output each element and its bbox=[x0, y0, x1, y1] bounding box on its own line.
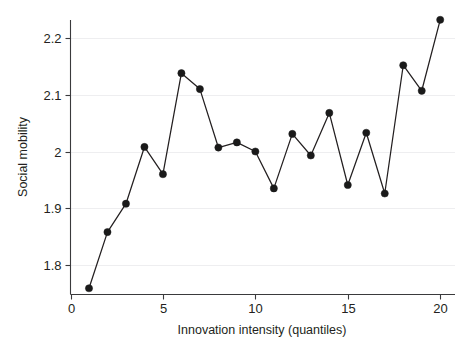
data-point bbox=[289, 130, 296, 137]
data-point bbox=[381, 190, 388, 197]
data-point bbox=[270, 185, 277, 192]
x-tick-marks bbox=[72, 295, 441, 300]
gridlines bbox=[71, 39, 456, 266]
x-tick-labels: 05101520 bbox=[68, 301, 448, 316]
data-point bbox=[418, 87, 425, 94]
y-tick-label-4: 2.2 bbox=[43, 31, 61, 46]
data-point bbox=[233, 139, 240, 146]
data-point bbox=[196, 85, 203, 92]
y-tick-label-1: 1.9 bbox=[43, 201, 61, 216]
data-point bbox=[252, 148, 259, 155]
series-polyline bbox=[89, 20, 440, 288]
x-tick-label-1: 5 bbox=[160, 301, 167, 316]
y-tick-label-3: 2.1 bbox=[43, 88, 61, 103]
data-point bbox=[344, 181, 351, 188]
data-point bbox=[307, 152, 314, 159]
x-tick-label-2: 10 bbox=[248, 301, 262, 316]
line-chart-canvas: 1.81.922.12.2 05101520 Innovation intens… bbox=[0, 0, 475, 349]
data-point bbox=[159, 171, 166, 178]
y-tick-labels: 1.81.922.12.2 bbox=[43, 31, 61, 273]
x-axis-title: Innovation intensity (quantiles) bbox=[178, 323, 347, 337]
data-point bbox=[437, 16, 444, 23]
y-tick-label-0: 1.8 bbox=[43, 258, 61, 273]
y-axis-title: Social mobility bbox=[16, 116, 30, 197]
data-point bbox=[141, 143, 148, 150]
x-tick-label-0: 0 bbox=[68, 301, 75, 316]
chart-figure: 1.81.922.12.2 05101520 Innovation intens… bbox=[0, 0, 475, 349]
x-tick-label-3: 15 bbox=[341, 301, 355, 316]
data-point bbox=[326, 109, 333, 116]
data-point bbox=[363, 129, 370, 136]
data-point bbox=[400, 62, 407, 69]
data-point bbox=[215, 144, 222, 151]
y-tick-marks bbox=[66, 39, 71, 266]
data-series-line bbox=[89, 20, 440, 288]
data-point bbox=[122, 200, 129, 207]
x-tick-label-4: 20 bbox=[433, 301, 447, 316]
data-point bbox=[104, 228, 111, 235]
y-tick-label-2: 2 bbox=[54, 145, 61, 160]
data-point bbox=[178, 70, 185, 77]
data-point bbox=[85, 285, 92, 292]
plot-axes bbox=[71, 20, 456, 295]
